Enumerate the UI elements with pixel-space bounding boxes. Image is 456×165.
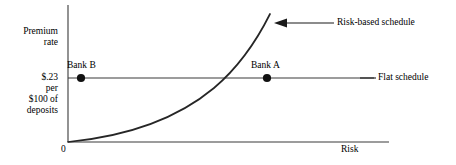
origin-label: 0 [61,144,66,155]
bank-a-point-marker [263,74,271,82]
risk-based-schedule-label: Risk-based schedule [337,17,415,28]
y-axis-title: Premium rate [0,26,58,48]
x-axis-title: Risk [341,144,358,155]
bank-b-point-marker [77,74,85,82]
flat-schedule-label: Flat schedule [378,72,428,83]
y-axis-tick-label: $.23 per $100 of deposits [0,72,58,116]
figure-container: Premium rate $.23 per $100 of deposits 0… [0,0,456,165]
bank-b-label: Bank B [67,60,96,71]
bank-a-label: Bank A [251,60,280,71]
risk-based-arrow-head [274,18,287,27]
